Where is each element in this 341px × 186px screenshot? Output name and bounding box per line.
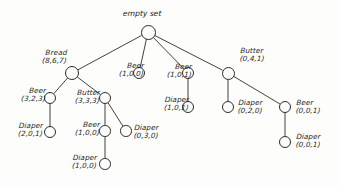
tree-node[interactable] xyxy=(99,158,111,170)
tree-node[interactable] xyxy=(120,125,132,137)
tree-node-label: Diaper(1,0,1) xyxy=(155,96,190,113)
tree-node[interactable] xyxy=(279,101,291,113)
tree-edge xyxy=(108,103,123,126)
tree-node[interactable] xyxy=(279,136,291,148)
tree-node-label-root: empty set xyxy=(123,9,162,18)
tree-node-label: Beer(1,0,0) xyxy=(66,121,101,138)
tree-node-count: (0,2,0) xyxy=(238,107,263,115)
tree-node[interactable] xyxy=(65,66,79,80)
tree-node[interactable] xyxy=(44,126,56,138)
tree-node-count: (0,4,1) xyxy=(240,55,265,63)
tree-node-label: Beer(1,0,1) xyxy=(158,63,193,80)
tree-node-count: (1,0,0) xyxy=(66,129,100,137)
tree-node-label: Beer(3,2,3) xyxy=(12,87,47,104)
fp-tree-diagram: empty setBread(8,6,7)Beer(3,2,3)Diaper(2… xyxy=(0,0,341,186)
tree-node[interactable] xyxy=(222,67,235,80)
tree-node-label: Beer(1,0,0) xyxy=(110,62,145,79)
tree-node-count: (0,0,1) xyxy=(296,141,321,149)
tree-node-count: (1,0,0) xyxy=(63,162,97,170)
tree-node[interactable] xyxy=(222,101,234,113)
tree-node-label: Diaper(0,0,1) xyxy=(296,133,321,150)
tree-node-count: (8,6,7) xyxy=(33,57,67,65)
tree-node-root[interactable] xyxy=(141,25,156,40)
tree-node-count: (3,3,3) xyxy=(66,97,100,105)
tree-node-count: (0,0,1) xyxy=(296,107,321,115)
tree-node-count: (1,0,0) xyxy=(110,70,144,78)
tree-node-count: (0,3,0) xyxy=(134,132,159,140)
tree-node-label: Diaper(2,0,1) xyxy=(9,122,44,139)
tree-node-count: (1,0,1) xyxy=(155,104,189,112)
tree-node-count: (1,0,1) xyxy=(158,71,192,79)
tree-node-label: Diaper(0,2,0) xyxy=(238,99,263,116)
tree-node-label: Bread(8,6,7) xyxy=(33,49,68,66)
tree-node-label: Butter(3,3,3) xyxy=(66,89,101,106)
tree-node-count: (2,0,1) xyxy=(9,130,43,138)
tree-node-label: Beer(0,0,1) xyxy=(296,99,321,116)
tree-node-count: (3,2,3) xyxy=(12,95,46,103)
tree-node[interactable] xyxy=(99,125,111,137)
tree-node-label: Butter(0,4,1) xyxy=(240,47,265,64)
tree-node-label: Diaper(1,0,0) xyxy=(63,154,98,171)
tree-node-label: Diaper(0,3,0) xyxy=(134,124,159,141)
